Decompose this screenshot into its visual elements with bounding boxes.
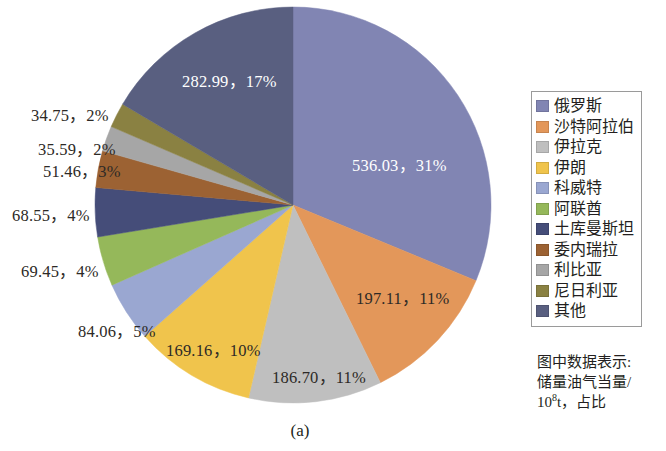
figure-pie-chart: 536.03，31%197.11，11%186.70，11%169.16，10%… — [0, 0, 666, 451]
legend-item[interactable]: 伊朗 — [536, 158, 637, 179]
pie-data-label: 282.99，17% — [182, 68, 277, 92]
note-line-2: 储量油气当量/ — [537, 372, 666, 392]
note-line-1: 图中数据表示: — [537, 352, 666, 372]
legend-item-label: 利比亚 — [554, 262, 602, 278]
pie-data-label: 186.70，11% — [272, 364, 366, 388]
legend-item-label: 阿联酋 — [554, 201, 602, 217]
pie-data-label: 169.16，10% — [166, 337, 261, 361]
legend-item-label: 伊朗 — [554, 160, 586, 176]
legend-color-swatch — [536, 244, 549, 256]
legend-item-label: 土库曼斯坦 — [554, 221, 634, 237]
legend-color-swatch — [536, 162, 549, 174]
pie-data-label: 68.55，4% — [12, 202, 90, 226]
legend-item[interactable]: 阿联酋 — [536, 199, 637, 220]
legend-item-label: 尼日利亚 — [554, 283, 618, 299]
legend-box: 俄罗斯沙特阿拉伯伊拉克伊朗科威特阿联酋土库曼斯坦委内瑞拉利比亚尼日利亚其他 — [531, 91, 642, 327]
legend-item[interactable]: 土库曼斯坦 — [536, 219, 637, 240]
chart-unit-note: 图中数据表示: 储量油气当量/ 108t，占比 — [537, 352, 666, 412]
legend-color-swatch — [536, 305, 549, 317]
legend-item-label: 俄罗斯 — [554, 98, 602, 114]
legend-item[interactable]: 利比亚 — [536, 260, 637, 281]
pie-data-label: 34.75，2% — [31, 102, 109, 126]
legend-color-swatch — [536, 203, 549, 215]
legend-color-swatch — [536, 121, 549, 133]
legend-item-label: 科威特 — [554, 180, 602, 196]
legend-color-swatch — [536, 100, 549, 112]
legend-item[interactable]: 委内瑞拉 — [536, 240, 637, 261]
note-line-3: 108t，占比 — [537, 392, 666, 412]
pie-slices-group — [95, 7, 491, 403]
pie-data-label: 197.11，11% — [356, 285, 449, 309]
pie-data-label: 69.45，4% — [21, 258, 99, 282]
legend-item[interactable]: 科威特 — [536, 178, 637, 199]
pie-chart-area: 536.03，31%197.11，11%186.70，11%169.16，10%… — [0, 0, 520, 420]
legend-item-label: 委内瑞拉 — [554, 242, 618, 258]
legend-color-swatch — [536, 182, 549, 194]
legend-color-swatch — [536, 285, 549, 297]
legend-item[interactable]: 沙特阿拉伯 — [536, 117, 637, 138]
note-base: 10 — [537, 394, 552, 410]
pie-data-label: 536.03，31% — [352, 152, 447, 176]
legend-rows: 俄罗斯沙特阿拉伯伊拉克伊朗科威特阿联酋土库曼斯坦委内瑞拉利比亚尼日利亚其他 — [536, 96, 637, 322]
legend-item[interactable]: 俄罗斯 — [536, 96, 637, 117]
figure-caption: (a) — [0, 421, 600, 441]
legend-item-label: 其他 — [554, 303, 586, 319]
legend-color-swatch — [536, 264, 549, 276]
pie-data-label: 51.46，3% — [43, 158, 121, 182]
pie-data-label: 35.59，2% — [38, 136, 116, 160]
legend-item-label: 沙特阿拉伯 — [554, 119, 634, 135]
legend-color-swatch — [536, 141, 549, 153]
pie-data-label: 84.06，5% — [78, 318, 156, 342]
legend-item-label: 伊拉克 — [554, 139, 602, 155]
legend-color-swatch — [536, 223, 549, 235]
legend-item[interactable]: 伊拉克 — [536, 137, 637, 158]
note-tail: t，占比 — [557, 394, 606, 410]
legend-item[interactable]: 尼日利亚 — [536, 281, 637, 302]
legend-item[interactable]: 其他 — [536, 301, 637, 322]
